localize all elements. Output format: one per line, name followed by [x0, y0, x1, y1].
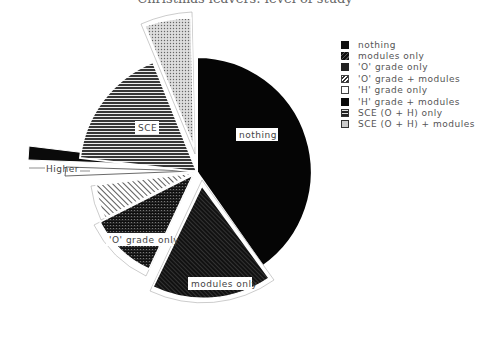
legend-item-o-grade-only: 'O' grade only	[341, 62, 475, 73]
legend-item-sce-plus-modules: SCE (O + H) + modules	[341, 119, 475, 130]
legend-item-o-grade-plus-modules: 'O' grade + modules	[341, 73, 475, 84]
label-sce: SCE	[135, 121, 159, 134]
swatch-dense-dark-icon	[341, 63, 349, 71]
legend-item-h-grade-only: 'H' grade only	[341, 85, 475, 96]
swatch-diagonal-light-icon	[341, 75, 349, 83]
swatch-dotted-light-icon	[341, 120, 349, 128]
legend-item-nothing: nothing	[341, 39, 475, 50]
legend: nothing modules only 'O' grade only 'O' …	[341, 39, 475, 130]
svg-text:modules only: modules only	[191, 279, 257, 289]
svg-text:Higher: Higher	[46, 164, 79, 174]
swatch-white-icon	[341, 86, 349, 94]
swatch-diagonal-dark-icon	[341, 52, 349, 60]
svg-text:nothing: nothing	[239, 130, 277, 140]
swatch-solid-black-icon	[341, 98, 349, 106]
legend-item-h-grade-plus-modules: 'H' grade + modules	[341, 96, 475, 107]
swatch-horizontal-lines-icon	[341, 109, 349, 117]
svg-text:'O' grade only: 'O' grade only	[109, 235, 179, 245]
swatch-solid-black-icon	[341, 41, 349, 49]
label-higher: Higher	[46, 164, 79, 174]
label-modules-only: modules only	[188, 277, 257, 290]
label-nothing: nothing	[236, 128, 278, 141]
svg-text:SCE: SCE	[138, 123, 157, 133]
legend-item-sce-only: SCE (O + H) only	[341, 107, 475, 118]
label-o-grade-only: 'O' grade only	[106, 233, 179, 246]
legend-item-modules-only: modules only	[341, 50, 475, 61]
